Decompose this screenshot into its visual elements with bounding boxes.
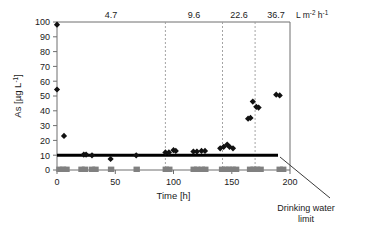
annotation-line-1: Drinking water <box>277 203 335 213</box>
flux-label-3: 22.6 <box>230 10 248 20</box>
x-tick-label-150: 150 <box>224 177 239 187</box>
sampling-marker <box>202 167 208 172</box>
y-tick-label-0: 0 <box>45 165 50 175</box>
sampling-marker <box>63 167 69 172</box>
y-tick-label-90: 90 <box>40 32 50 42</box>
y-axis-title-unit: µg L <box>12 83 23 102</box>
sampling-marker <box>280 167 286 172</box>
sampling-marker <box>92 167 98 172</box>
sampling-marker <box>233 167 239 172</box>
y-tick-label-60: 60 <box>40 77 50 87</box>
sampling-marker <box>166 167 172 172</box>
y-tick-label-10: 10 <box>40 151 50 161</box>
y-axis-title-species: As <box>12 106 23 117</box>
flux-unit-exp2: -1 <box>323 9 329 16</box>
flux-unit-prefix: L m <box>296 10 310 20</box>
sampling-event-markers <box>56 167 286 172</box>
x-tick-label-100: 100 <box>166 177 181 187</box>
y-tick-label-50: 50 <box>40 91 50 101</box>
x-axis-title: Time [h] <box>157 190 191 201</box>
y-axis-title-close: ] <box>12 74 23 77</box>
sampling-marker <box>108 167 114 172</box>
x-tick-label-50: 50 <box>110 177 120 187</box>
sampling-marker <box>134 167 140 172</box>
sampling-marker <box>257 167 263 172</box>
annotation-line-2: limit <box>298 214 314 224</box>
x-tick-label-200: 200 <box>282 177 297 187</box>
y-tick-label-30: 30 <box>40 121 50 131</box>
y-tick-label-40: 40 <box>40 106 50 116</box>
y-tick-label-100: 100 <box>35 17 50 27</box>
y-tick-label-70: 70 <box>40 62 50 72</box>
sampling-marker <box>82 167 88 172</box>
y-tick-label-80: 80 <box>40 47 50 57</box>
flux-label-1: 4.7 <box>105 10 118 20</box>
flux-label-2: 9.6 <box>188 10 201 20</box>
arsenic-breakthrough-chart: 0 10 20 30 40 50 60 70 80 90 100 0 50 10… <box>0 0 375 229</box>
x-tick-label-0: 0 <box>54 177 59 187</box>
flux-label-4: 36.7 <box>267 10 285 20</box>
y-tick-label-20: 20 <box>40 136 50 146</box>
